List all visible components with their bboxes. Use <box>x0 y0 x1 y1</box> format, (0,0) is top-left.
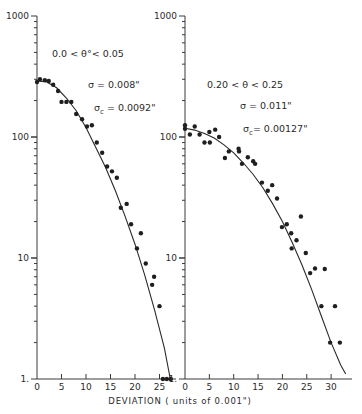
data-point <box>270 183 274 187</box>
x-tick-label: 30 <box>325 382 337 392</box>
x-tick-label: 25 <box>154 382 165 392</box>
data-point <box>69 100 73 104</box>
data-point <box>308 271 312 275</box>
data-point <box>285 222 289 226</box>
x-tick-label: 10 <box>80 382 92 392</box>
data-point <box>38 77 42 81</box>
data-point <box>319 304 323 308</box>
data-point <box>289 246 293 250</box>
data-point <box>90 123 94 127</box>
data-point <box>59 100 63 104</box>
right-panel: 1.1010010000510152025300.20 < θ < 0.25σ … <box>154 11 352 392</box>
data-point <box>119 206 123 210</box>
data-point <box>135 246 139 250</box>
data-point <box>129 222 133 226</box>
data-point <box>338 340 342 344</box>
x-tick-label: 10 <box>228 382 240 392</box>
y-tick-label: 1. <box>168 374 177 384</box>
data-point <box>74 112 78 116</box>
left-panel: 1.10100100005101520250.0 < θ°< 0.05σ = 0… <box>6 11 176 392</box>
sigma-annotation: σ = 0.008" <box>88 79 140 90</box>
data-point <box>266 188 270 192</box>
data-point <box>213 127 217 131</box>
x-tick-label: 20 <box>129 382 141 392</box>
data-point <box>217 135 221 139</box>
data-point <box>183 127 187 131</box>
data-point <box>323 267 327 271</box>
fit-curve <box>185 128 346 374</box>
data-point <box>289 231 293 235</box>
data-point <box>299 214 303 218</box>
y-tick-label: 10 <box>166 253 178 263</box>
data-point <box>139 231 143 235</box>
data-point <box>115 176 119 180</box>
data-point <box>56 89 60 93</box>
data-point <box>328 340 332 344</box>
data-point <box>95 140 99 144</box>
data-point <box>80 117 84 121</box>
data-point <box>110 169 114 173</box>
data-point <box>64 100 68 104</box>
sigma-c-annotation: σc= 0.00127" <box>243 123 308 137</box>
x-tick-label: 0 <box>34 382 40 392</box>
data-point <box>105 164 109 168</box>
data-point <box>313 266 317 270</box>
data-point <box>150 283 154 287</box>
data-point <box>193 124 197 128</box>
data-point <box>253 162 257 166</box>
data-point <box>161 377 165 381</box>
x-axis-label: DEVIATION ( units of 0.001") <box>108 396 251 406</box>
sigma-c-value: = 0.00127" <box>253 123 308 134</box>
y-tick-label: 100 <box>12 132 29 142</box>
data-point <box>240 162 244 166</box>
y-tick-label: 1000 <box>6 11 29 21</box>
x-tick-label: 15 <box>252 382 263 392</box>
data-point <box>237 149 241 153</box>
sigma-c-value: = 0.0092" <box>104 102 156 113</box>
data-point <box>152 275 156 279</box>
data-point <box>260 180 264 184</box>
data-point <box>208 140 212 144</box>
data-point <box>227 149 231 153</box>
data-point <box>197 132 201 136</box>
x-tick-label: 0 <box>182 382 188 392</box>
fit-curve <box>37 81 170 379</box>
sigma-annotation: σ = 0.011" <box>240 100 292 111</box>
x-tick-label: 5 <box>206 382 212 392</box>
chart-canvas: 1.10100100005101520250.0 < θ°< 0.05σ = 0… <box>0 0 362 414</box>
y-tick-label: 10 <box>18 253 30 263</box>
data-point <box>47 79 51 83</box>
x-tick-label: 5 <box>59 382 65 392</box>
data-point <box>144 261 148 265</box>
data-point <box>246 155 250 159</box>
data-point <box>207 130 211 134</box>
figure: 1.10100100005101520250.0 < θ°< 0.05σ = 0… <box>0 0 362 414</box>
data-point <box>223 156 227 160</box>
theta-range-annotation: 0.0 < θ°< 0.05 <box>52 48 124 59</box>
sigma-c-annotation: σc = 0.0092" <box>94 102 156 116</box>
data-point <box>100 151 104 155</box>
data-point <box>280 225 284 229</box>
y-tick-label: 100 <box>160 132 177 142</box>
data-point <box>188 132 192 136</box>
data-point <box>43 78 47 82</box>
theta-range-annotation: 0.20 < θ < 0.25 <box>207 79 283 90</box>
x-tick-label: 15 <box>105 382 116 392</box>
data-point <box>294 238 298 242</box>
data-point <box>333 304 337 308</box>
data-point <box>124 202 128 206</box>
data-point <box>51 83 55 87</box>
y-tick-label: 1000 <box>154 11 177 21</box>
data-point <box>304 251 308 255</box>
x-tick-label: 25 <box>301 382 312 392</box>
x-tick-label: 20 <box>277 382 289 392</box>
y-tick-label: 1. <box>20 374 29 384</box>
data-point <box>202 140 206 144</box>
data-point <box>157 304 161 308</box>
data-point <box>85 124 89 128</box>
data-point <box>275 196 279 200</box>
